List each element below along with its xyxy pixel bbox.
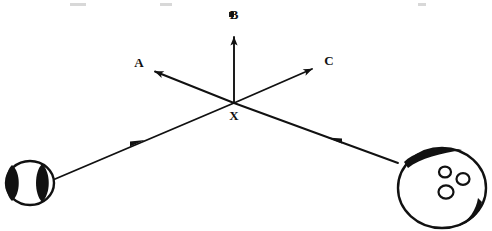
bowling-ball-motion-path xyxy=(234,103,398,163)
diagram-canvas: A B C X xyxy=(0,0,492,231)
bowling-ball xyxy=(398,148,486,228)
vector-C-label: C xyxy=(324,53,333,68)
vector-C: C xyxy=(234,53,334,103)
collision-diagram: A B C X xyxy=(0,0,492,231)
baseball-motion-path xyxy=(48,103,234,182)
collision-point-label: X xyxy=(229,108,239,123)
bowling-ball-hole-1 xyxy=(439,167,451,178)
vector-B: B xyxy=(230,7,239,103)
vector-B-label: B xyxy=(230,7,239,22)
scan-artifacts xyxy=(70,3,426,17)
bowling-ball-hole-2 xyxy=(457,173,470,185)
bowling-ball-hole-3 xyxy=(439,185,454,198)
vector-A-label: A xyxy=(134,55,144,70)
baseball xyxy=(6,161,54,205)
vector-A: A xyxy=(134,55,234,103)
